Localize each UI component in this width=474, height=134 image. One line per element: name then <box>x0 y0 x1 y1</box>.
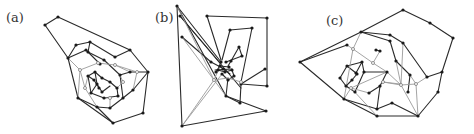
graph-vertex <box>428 21 431 24</box>
graph-edge <box>115 50 130 57</box>
graph-vertex <box>232 74 235 77</box>
graph-vertex-open <box>415 83 418 86</box>
graph-vertex <box>115 86 118 89</box>
graph-vertex-open <box>240 81 243 84</box>
graph-vertex <box>350 78 353 81</box>
graph-edge <box>226 96 266 111</box>
graph-edge <box>230 28 252 30</box>
graph-vertex <box>401 41 404 44</box>
graph-edge <box>430 23 453 38</box>
graph-edge-light <box>177 6 214 80</box>
graph-edge <box>207 16 267 18</box>
graph-vertex <box>76 96 79 99</box>
graph-edge <box>369 86 380 93</box>
graph-edge-light <box>115 65 130 72</box>
graph-vertex <box>221 67 224 70</box>
graph-vertex <box>344 84 347 87</box>
graph-vertex <box>218 64 221 67</box>
graph-vertex <box>265 84 268 87</box>
graph-vertex <box>178 14 181 17</box>
graph-edge <box>45 17 58 25</box>
panel-b-label: (b) <box>155 10 173 25</box>
graph-vertex <box>378 84 381 87</box>
graph-edge-light <box>80 70 85 88</box>
graph-vertex <box>180 35 183 38</box>
graph-edge <box>58 17 130 50</box>
graph-vertex <box>227 65 230 68</box>
graph-edge <box>361 10 403 32</box>
panel-a-light-edges <box>68 58 137 108</box>
graph-vertex <box>116 94 119 97</box>
panel-a-vertices <box>43 15 149 124</box>
graph-edge-light <box>228 78 241 82</box>
graph-vertex <box>406 90 409 93</box>
graph-vertex <box>353 90 356 93</box>
graph-vertex <box>100 76 103 79</box>
graph-edge <box>241 69 265 84</box>
graph-vertex <box>86 74 89 77</box>
graph-vertex-open <box>350 87 353 90</box>
graph-edge-light <box>373 63 387 72</box>
graph-vertex <box>223 70 226 73</box>
graph-vertex <box>360 60 363 63</box>
panel-c-dark-edges <box>300 10 453 116</box>
graph-vertex-open <box>372 62 375 65</box>
graph-vertex <box>375 114 378 117</box>
graph-vertex <box>228 28 231 31</box>
graph-edge <box>427 72 442 77</box>
graph-vertex <box>345 64 348 67</box>
graph-vertex-open <box>109 97 112 100</box>
graph-vertex <box>146 70 149 73</box>
graph-vertex-open <box>97 62 100 65</box>
graph-vertex <box>102 58 105 61</box>
graph-vertex <box>265 16 268 19</box>
graph-vertex <box>263 67 266 70</box>
graph-vertex <box>56 15 59 18</box>
graph-vertex <box>113 55 116 58</box>
graph-vertex <box>43 23 46 26</box>
graph-vertex-open <box>136 71 139 74</box>
graph-vertex <box>230 68 233 71</box>
graph-vertex <box>97 86 100 89</box>
graph-edge <box>300 62 344 99</box>
graph-vertex <box>93 70 96 73</box>
graph-vertex-open <box>114 64 117 67</box>
panel-a-label: (a) <box>6 10 24 25</box>
panel-c-vertices <box>298 8 454 117</box>
graph-vertex <box>451 36 454 39</box>
panel-c-graph: (c) <box>298 8 454 117</box>
graph-vertex <box>440 70 443 73</box>
graph-vertex <box>298 60 301 63</box>
panel-b-dark-edges <box>177 6 267 126</box>
graph-vertex-open <box>79 69 82 72</box>
graph-vertex <box>128 70 131 73</box>
graph-edge <box>123 90 133 98</box>
graph-vertex <box>108 80 111 83</box>
graph-vertex <box>226 78 229 81</box>
graph-edge <box>226 56 242 62</box>
graph-vertex <box>74 43 77 46</box>
graph-vertex <box>100 90 103 93</box>
graph-edge <box>222 30 230 60</box>
graph-vertex <box>425 75 428 78</box>
graph-edge <box>340 66 347 78</box>
graph-edge <box>113 113 143 123</box>
graph-edge <box>45 25 68 58</box>
graph-vertex <box>92 78 95 81</box>
graph-edge-light <box>373 51 380 63</box>
graph-vertex <box>88 40 91 43</box>
graph-vertex <box>436 90 439 93</box>
graph-edge <box>442 38 453 72</box>
graph-vertex <box>388 33 391 36</box>
panel-b-graph: (b) <box>155 4 269 127</box>
graph-edge <box>91 93 104 98</box>
graph-edge <box>347 66 356 73</box>
graph-edge <box>390 41 396 61</box>
graph-vertex <box>359 30 362 33</box>
graph-vertex-open <box>382 81 385 84</box>
graph-vertex <box>375 107 378 110</box>
graph-drawings-figure: (a) (b) (c) <box>0 0 474 134</box>
graph-vertex <box>374 48 377 51</box>
graph-vertex <box>362 70 365 73</box>
graph-edge-light <box>416 77 427 84</box>
